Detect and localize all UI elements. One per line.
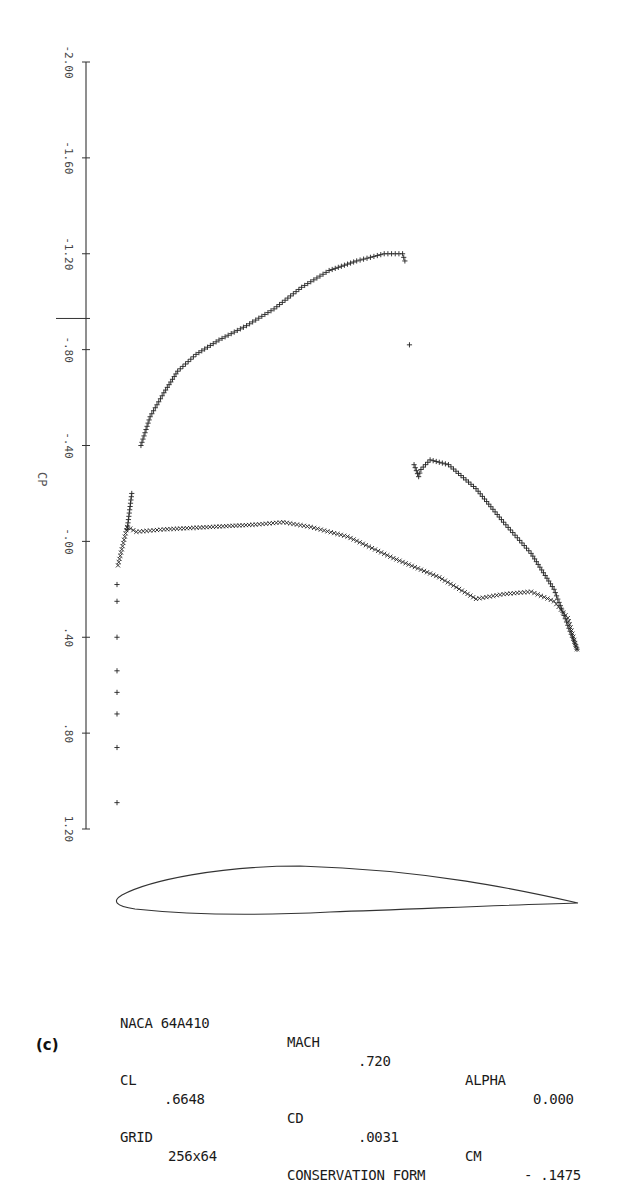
- svg-text:-2.00: -2.00: [62, 45, 75, 78]
- grid-label: GRID: [120, 1128, 153, 1147]
- data-series: [114, 251, 579, 805]
- svg-text:.80: .80: [62, 723, 75, 743]
- cp-axis-label: CP: [35, 472, 49, 486]
- svg-text:-.80: -.80: [62, 336, 75, 363]
- cd-value: .0031: [358, 1128, 399, 1147]
- svg-text:-1.20: -1.20: [62, 237, 75, 270]
- info-row-3: GRID 256x64 CONSERVATION FORM: [120, 1109, 153, 1128]
- alpha-value: 0.000: [533, 1090, 574, 1109]
- svg-text:-1.60: -1.60: [62, 141, 75, 174]
- mach-label: MACH: [287, 1033, 320, 1052]
- svg-text:1.20: 1.20: [62, 816, 75, 843]
- cm-label: CM: [465, 1147, 481, 1166]
- info-row-1: NACA 64A410 MACH .720 ALPHA 0.000: [120, 995, 153, 1014]
- cl-label: CL: [120, 1071, 136, 1090]
- svg-text:-.00: -.00: [62, 528, 75, 555]
- info-row-2: CL .6648 CD .0031 CM - .1475: [120, 1052, 153, 1071]
- grid-value: 256x64: [168, 1147, 217, 1166]
- alpha-label: ALPHA: [465, 1071, 506, 1090]
- airfoil-name: NACA 64A410: [120, 1014, 209, 1033]
- svg-text:-.40: -.40: [62, 432, 75, 459]
- info-block: NACA 64A410 MACH .720 ALPHA 0.000 CL .66…: [120, 957, 153, 1147]
- airfoil-outline: [116, 866, 578, 914]
- form-label: CONSERVATION FORM: [287, 1166, 425, 1184]
- cl-value: .6648: [164, 1090, 205, 1109]
- y-tick-labels: -2.00-1.60-1.20-.80-.40-.00.40.801.20: [62, 45, 75, 842]
- mach-value: .720: [358, 1052, 391, 1071]
- cd-label: CD: [287, 1109, 303, 1128]
- cm-value: - .1475: [524, 1166, 581, 1184]
- panel-tag: (c): [36, 1036, 59, 1054]
- svg-text:.40: .40: [62, 627, 75, 647]
